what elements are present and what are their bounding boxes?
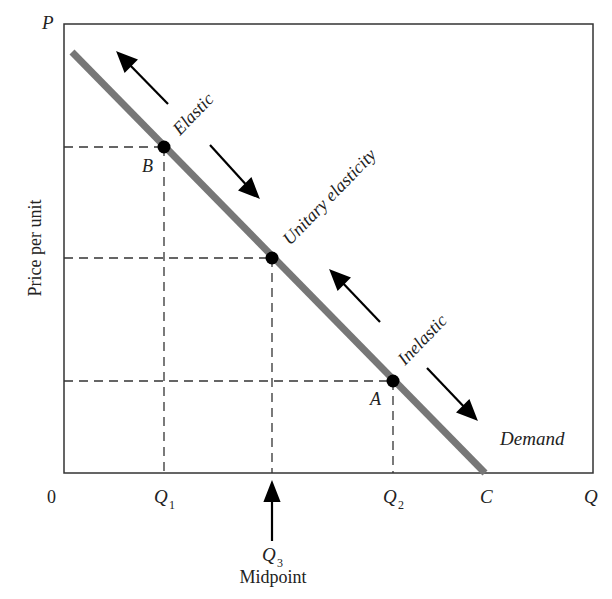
tick-q1-sub: 1	[169, 498, 175, 512]
elasticity-diagram: P Price per unit 0 Q Q 1 Q 2 C Q 3 Midpo…	[0, 0, 612, 599]
tick-c: C	[480, 486, 493, 507]
arrow-up-left-icon	[339, 279, 380, 322]
unitary-label: Unitary elasticity	[278, 145, 380, 249]
elastic-label: Elastic	[168, 89, 218, 140]
tick-q2-sub: 2	[398, 498, 404, 512]
demand-label: Demand	[499, 428, 565, 449]
midpoint-label: Midpoint	[239, 567, 306, 587]
point-b	[158, 141, 171, 154]
arrow-up-left-icon	[126, 61, 168, 104]
point-a-label: A	[369, 389, 382, 409]
point-midpoint	[266, 252, 279, 265]
plot-frame	[64, 24, 593, 473]
arrow-down-right-icon	[427, 368, 468, 411]
origin-label: 0	[47, 487, 56, 507]
x-axis-symbol: Q	[584, 486, 598, 507]
tick-q2: Q	[383, 486, 397, 507]
arrow-down-right-icon	[210, 145, 250, 189]
point-b-label: B	[142, 156, 153, 176]
y-axis-symbol: P	[41, 12, 54, 33]
demand-curve	[72, 52, 485, 473]
y-axis-label: Price per unit	[25, 200, 45, 297]
midpoint-q3: Q	[262, 544, 276, 565]
point-a	[387, 375, 400, 388]
tick-q1: Q	[154, 486, 168, 507]
inelastic-label: Inelastic	[393, 310, 451, 369]
